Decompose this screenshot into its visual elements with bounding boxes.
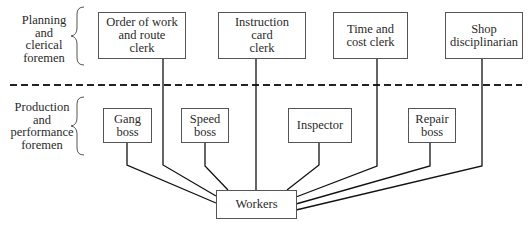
- inspector-box: Inspector: [288, 108, 352, 143]
- edge-inspector: [287, 142, 319, 190]
- edge-gang-boss: [127, 142, 216, 203]
- production-group-label: Production and performance foremen: [8, 101, 76, 151]
- time-and-cost-clerk-box: Time and cost clerk: [333, 12, 408, 59]
- repair-boss-box: Repair boss: [408, 108, 456, 143]
- org-chart-diagram: Planning and clerical foremen Production…: [0, 0, 532, 228]
- edge-speed-boss: [205, 142, 228, 190]
- instruction-card-clerk-box: Instruction card clerk: [218, 12, 306, 59]
- planning-group-label: Planning and clerical foremen: [14, 14, 74, 64]
- order-of-work-route-clerk-box: Order of work and route clerk: [98, 12, 186, 59]
- speed-boss-box: Speed boss: [181, 108, 229, 143]
- shop-disciplinarian-box: Shop disciplinarian: [445, 12, 523, 59]
- workers-box: Workers: [216, 190, 297, 219]
- gang-boss-box: Gang boss: [103, 108, 152, 143]
